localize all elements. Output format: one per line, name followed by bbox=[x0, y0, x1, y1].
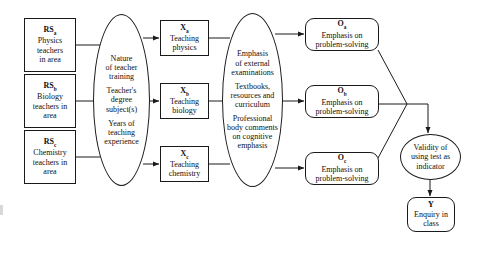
mediator1-group-training: Nature of teacher training bbox=[106, 54, 138, 81]
node-x-b-code: Xb bbox=[180, 87, 189, 97]
node-o-b-line2: problem-solving bbox=[316, 107, 369, 116]
node-x-a-code: Xa bbox=[180, 24, 188, 34]
mediator2-exams-line1: Emphasis bbox=[231, 49, 274, 58]
mediator1-degree-line2: degree bbox=[106, 95, 137, 104]
node-validity-line1: Validity of bbox=[414, 143, 448, 152]
node-o-a-line2: problem-solving bbox=[316, 40, 369, 49]
node-o-b-code: Ob bbox=[337, 87, 346, 97]
mediator1-experience-line2: teaching bbox=[104, 128, 139, 137]
node-x-c[interactable]: Xc Teaching chemistry bbox=[160, 146, 209, 182]
node-rs-b-code: RSb bbox=[43, 82, 56, 92]
mediator1-experience-line1: Years of bbox=[104, 119, 139, 128]
mediator2-textbooks-line2: resources and bbox=[231, 91, 275, 100]
node-x-a-line2: physics bbox=[173, 43, 197, 52]
node-rs-c-line2: teachers in bbox=[33, 158, 67, 167]
node-x-b[interactable]: Xb Teaching biology bbox=[160, 83, 209, 119]
mediator2-body-line3: on cognitive bbox=[227, 132, 278, 141]
mediator2-body-line1: Professional bbox=[227, 114, 278, 123]
node-o-c-line1: Emphasis on bbox=[321, 165, 362, 174]
node-o-a[interactable]: Oa Emphasis on problem-solving bbox=[305, 18, 379, 51]
mediator1-degree-line1: Teacher's bbox=[106, 86, 137, 95]
mediator2-body-line2: body comments bbox=[227, 123, 278, 132]
mediator1-group-experience: Years of teaching experience bbox=[104, 119, 139, 146]
node-x-c-code: Xc bbox=[180, 150, 188, 160]
node-outcome-line1: Enquiry in bbox=[414, 210, 448, 219]
mediator1-training-line2: of teacher bbox=[106, 63, 138, 72]
node-validity-line3: indicator bbox=[416, 162, 444, 171]
mediator1-experience-line3: experience bbox=[104, 137, 139, 146]
node-validity[interactable]: Validity of using test as indicator bbox=[400, 134, 461, 180]
node-rs-a-line1: Physics bbox=[38, 36, 62, 45]
mediator2-group-professional-body: Professional body comments on cognitive … bbox=[227, 114, 278, 150]
node-o-a-code: Oa bbox=[338, 20, 347, 30]
node-o-c[interactable]: Oc Emphasis on problem-solving bbox=[305, 152, 379, 185]
node-rs-a-line2: teachers bbox=[37, 46, 63, 55]
node-x-a[interactable]: Xa Teaching physics bbox=[160, 20, 209, 56]
mediator1-training-line3: training bbox=[106, 72, 138, 81]
node-outcome-code: Y bbox=[428, 201, 434, 210]
node-x-b-line1: Teaching bbox=[170, 97, 199, 106]
node-rs-c-code: RSc bbox=[44, 138, 57, 148]
mediator2-group-exams: Emphasis of external examinations bbox=[231, 49, 274, 76]
node-rs-a-code: RSa bbox=[44, 26, 57, 36]
mediator2-exams-line2: of external bbox=[231, 59, 274, 68]
node-o-c-code: Oc bbox=[338, 154, 347, 164]
node-x-c-line2: chemistry bbox=[169, 169, 201, 178]
node-o-b[interactable]: Ob Emphasis on problem-solving bbox=[305, 85, 379, 118]
node-outcome-line2: class bbox=[423, 219, 439, 228]
node-mediator-curriculum-context[interactable]: Emphasis of external examinations Textbo… bbox=[222, 13, 283, 187]
node-o-b-line1: Emphasis on bbox=[321, 98, 362, 107]
mediator1-training-line1: Nature bbox=[106, 54, 138, 63]
node-mediator-teacher-background[interactable]: Nature of teacher training Teacher's deg… bbox=[93, 14, 150, 186]
node-rs-b[interactable]: RSb Biology teachers in area bbox=[24, 74, 76, 128]
node-o-c-line2: problem-solving bbox=[316, 174, 369, 183]
node-o-a-line1: Emphasis on bbox=[321, 31, 362, 40]
diagram-canvas: RSa Physics teachers in area RSb Biology… bbox=[0, 0, 484, 256]
node-x-b-line2: biology bbox=[172, 106, 196, 115]
mediator2-group-textbooks: Textbooks, resources and curriculum bbox=[231, 82, 275, 109]
node-rs-a-line3: in area bbox=[39, 55, 61, 64]
scan-artifact bbox=[0, 205, 3, 215]
mediator2-textbooks-line1: Textbooks, bbox=[231, 82, 275, 91]
node-rs-c-line3: area bbox=[43, 167, 56, 176]
mediator2-textbooks-line3: curriculum bbox=[231, 100, 275, 109]
node-x-a-line1: Teaching bbox=[170, 34, 199, 43]
wire-junction-to-validity bbox=[407, 104, 428, 133]
node-rs-b-line1: Biology bbox=[37, 92, 63, 101]
node-rs-b-line3: area bbox=[43, 111, 56, 120]
node-x-c-line1: Teaching bbox=[170, 160, 199, 169]
wire-oa-to-junction bbox=[378, 50, 407, 104]
mediator1-group-degree: Teacher's degree subject(s) bbox=[106, 86, 137, 113]
mediator1-degree-line3: subject(s) bbox=[106, 105, 137, 114]
mediator2-body-line4: emphasis bbox=[227, 141, 278, 150]
mediator2-exams-line3: examinations bbox=[231, 68, 274, 77]
node-rs-b-line2: teachers in bbox=[33, 102, 67, 111]
node-validity-line2: using test as bbox=[411, 152, 450, 161]
node-rs-c[interactable]: RSc Chemistry teachers in area bbox=[24, 130, 76, 184]
node-outcome-y[interactable]: Y Enquiry in class bbox=[407, 197, 455, 232]
node-rs-c-line1: Chemistry bbox=[33, 148, 66, 157]
node-rs-a[interactable]: RSa Physics teachers in area bbox=[24, 18, 76, 72]
